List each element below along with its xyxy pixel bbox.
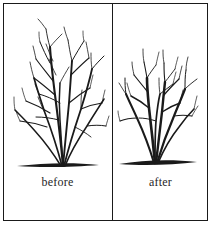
panel-before: before bbox=[3, 3, 112, 221]
figure-root: before bbox=[0, 0, 216, 226]
caption-before: before bbox=[3, 175, 112, 189]
shrub-untrimmed-icon bbox=[3, 3, 112, 178]
panel-after: after bbox=[113, 3, 208, 221]
ground-line-icon bbox=[17, 163, 99, 167]
caption-after: after bbox=[113, 175, 208, 189]
shrub-pruned-icon bbox=[113, 3, 208, 178]
